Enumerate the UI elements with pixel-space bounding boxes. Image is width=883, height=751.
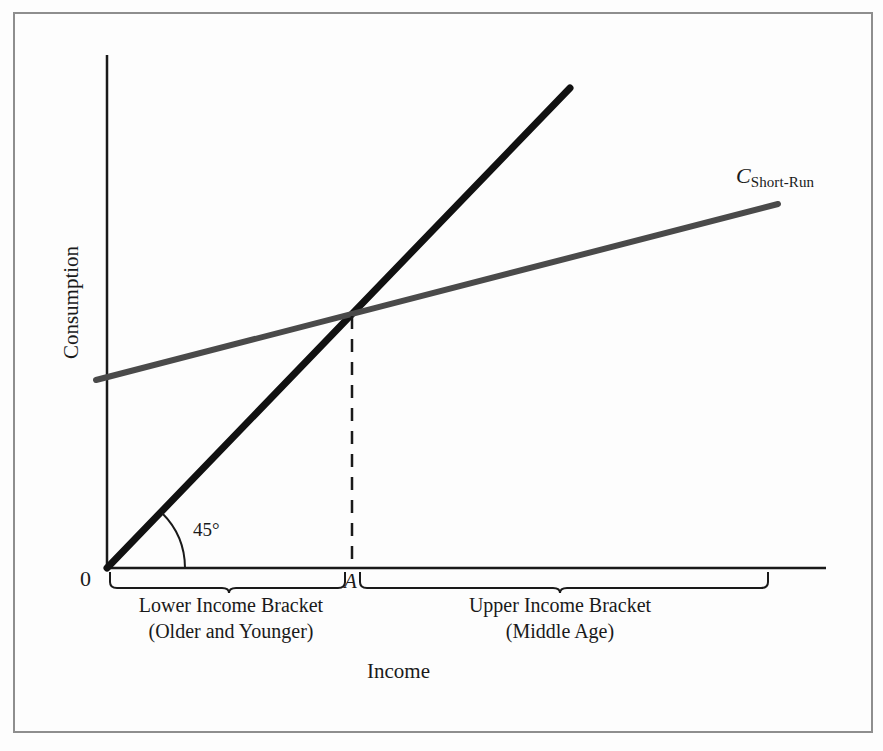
figure-canvas: Consumption Income 0 45° A CShort-Run Lo… (0, 0, 883, 751)
origin-label: 0 (80, 566, 91, 592)
consumption-curve-label: CShort-Run (736, 163, 814, 191)
angle-arc (162, 513, 185, 568)
x-axis-title: Income (367, 659, 430, 684)
lower-income-brace (110, 572, 345, 593)
upper-income-brace (360, 572, 768, 593)
y-axis-title: Consumption (59, 223, 84, 383)
point-a-label: A (344, 569, 357, 594)
curve-label-main: C (736, 163, 751, 188)
upper-bracket-line-2: (Middle Age) (352, 618, 768, 644)
lower-bracket-line-2: (Older and Younger) (110, 618, 352, 644)
lower-income-bracket-label: Lower Income Bracket (Older and Younger) (110, 592, 352, 645)
lower-bracket-line-1: Lower Income Bracket (110, 592, 352, 618)
upper-bracket-line-1: Upper Income Bracket (352, 592, 768, 618)
curve-label-subscript: Short-Run (751, 174, 814, 190)
forty-five-degree-line (107, 88, 570, 568)
upper-income-bracket-label: Upper Income Bracket (Middle Age) (352, 592, 768, 645)
angle-label: 45° (193, 519, 220, 541)
